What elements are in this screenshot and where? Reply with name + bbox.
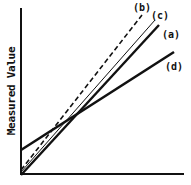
line-a <box>21 25 159 175</box>
label-a: (a) <box>162 30 180 40</box>
plot-area <box>0 0 191 185</box>
y-axis-label: Measured Value <box>5 41 19 141</box>
line-diagram: Measured Value (b) (c) (a) (d) <box>0 0 191 185</box>
line-c <box>21 20 155 172</box>
label-c: (c) <box>151 11 169 21</box>
label-b: (b) <box>133 3 151 13</box>
line-d <box>21 52 174 150</box>
line-b <box>21 15 142 170</box>
label-d: (d) <box>165 62 183 72</box>
